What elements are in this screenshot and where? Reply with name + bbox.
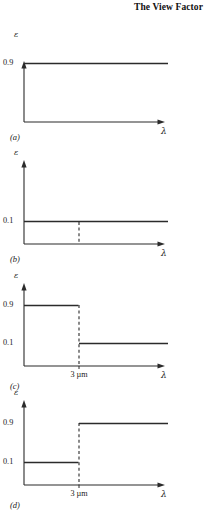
y-tick-label-c-1: 0.1 [3,339,13,347]
panel-caption-a: (a) [10,133,20,142]
x-axis-label-d: λ [161,490,167,499]
plot-a-svg [0,28,205,144]
x-tick-label-d-0: 3 µm [59,490,99,498]
y-axis-label-c: ε [14,272,18,280]
y-axis-arrow-a [21,61,26,69]
y-axis-label-a: ε [14,31,18,39]
chart-panel-b: ε λ 0.1 (b) [0,150,205,266]
x-axis-label-b: λ [161,249,167,258]
plot-b-svg [0,150,205,266]
panel-caption-d: (d) [10,501,20,510]
chart-panel-d: ε λ 0.9 0.1 3 µm (d) [0,391,205,505]
y-axis-label-d: ε [14,389,18,397]
y-tick-label-d-1: 0.1 [3,458,13,466]
y-axis-arrow-c [21,283,26,291]
plot-d-svg [0,391,205,505]
plot-c-svg [0,272,205,390]
y-tick-label-d-0: 0.9 [3,419,13,427]
x-tick-label-c-0: 3 µm [59,371,99,379]
x-axis-arrow-c [158,363,166,368]
y-axis-arrow-b [21,160,26,168]
y-axis-label-b: ε [14,149,18,157]
chart-panel-a: ε λ 0.9 (a) [0,28,205,144]
x-axis-arrow-b [158,241,166,246]
page-header-title: The View Factor [134,2,203,12]
panel-caption-b: (b) [10,255,20,264]
y-tick-label-c-0: 0.9 [3,301,13,309]
y-axis-arrow-d [21,400,26,408]
x-axis-label-c: λ [161,371,167,380]
y-tick-label-a-0: 0.9 [3,59,13,67]
x-axis-label-a: λ [161,127,167,136]
chart-panel-c: ε λ 0.9 0.1 3 µm (c) [0,272,205,390]
y-tick-label-b-0: 0.1 [3,217,13,225]
x-axis-arrow-d [158,482,166,487]
x-axis-arrow-a [158,119,166,124]
